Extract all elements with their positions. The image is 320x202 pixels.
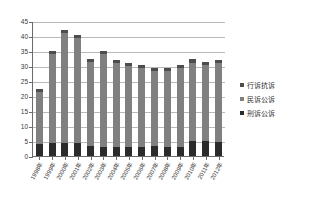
- bar-segment-xingsugongsu[interactable]: [151, 146, 158, 156]
- bar-segment-xingsugongsu[interactable]: [100, 147, 107, 156]
- stacked-bar[interactable]: [74, 35, 81, 156]
- stacked-bar[interactable]: [138, 65, 145, 157]
- bar-segment-xingsugongsu[interactable]: [138, 147, 145, 156]
- bar-segment-xingsugongsu[interactable]: [61, 143, 68, 157]
- stacked-bar[interactable]: [177, 65, 184, 157]
- bar-segment-minsugongsu[interactable]: [113, 63, 120, 147]
- bar-segment-minsugongsu[interactable]: [164, 71, 171, 148]
- x-axis-tick: [78, 156, 79, 160]
- bar-segment-minsugongsu[interactable]: [36, 92, 43, 145]
- bar-segment-xingsugongsu[interactable]: [49, 143, 56, 156]
- stacked-bar[interactable]: [49, 51, 56, 156]
- legend-swatch-icon: [240, 97, 244, 101]
- bar-group[interactable]: 2006年: [135, 21, 148, 156]
- bar-segment-minsugongsu[interactable]: [125, 66, 132, 147]
- bar-segment-minsugongsu[interactable]: [215, 63, 222, 142]
- bar-segment-minsugongsu[interactable]: [138, 68, 145, 148]
- y-axis-tick-label: 5: [24, 139, 28, 146]
- stacked-bar[interactable]: [125, 63, 132, 156]
- y-axis-tick-label: 25: [21, 79, 28, 86]
- y-axis-tick-label: 15: [21, 109, 28, 116]
- bar-group[interactable]: 2011年: [199, 21, 212, 156]
- legend-item-label: 民诉公诉: [247, 96, 275, 103]
- stacked-bar[interactable]: [36, 89, 43, 157]
- bar-segment-minsugongsu[interactable]: [87, 62, 94, 146]
- bar-segment-xingsugongsu[interactable]: [36, 144, 43, 156]
- bar-segment-minsugongsu[interactable]: [61, 33, 68, 143]
- chart-legend: 行诉抗诉民诉公诉刑诉公诉: [240, 78, 318, 120]
- chart-container: 454035302520151050 1998年1999年2000年2001年2…: [0, 0, 320, 202]
- bar-segment-minsugongsu[interactable]: [189, 63, 196, 141]
- y-axis-tick-label: 10: [21, 124, 28, 131]
- y-axis-tick-label: 20: [21, 94, 28, 101]
- stacked-bar[interactable]: [164, 68, 171, 157]
- stacked-bar[interactable]: [87, 59, 94, 156]
- y-axis-tick-label: 40: [21, 34, 28, 41]
- stacked-bar[interactable]: [202, 62, 209, 157]
- bar-segment-minsugongsu[interactable]: [74, 38, 81, 144]
- bar-group[interactable]: 2004年: [110, 21, 123, 156]
- bar-group[interactable]: 2008年: [161, 21, 174, 156]
- x-axis-tick: [91, 156, 92, 160]
- legend-item[interactable]: 行诉抗诉: [240, 78, 318, 92]
- bar-group[interactable]: 1998年: [33, 21, 46, 156]
- y-axis-tick-label: 0: [24, 154, 28, 161]
- legend-item-label: 行诉抗诉: [247, 82, 275, 89]
- legend-item[interactable]: 刑诉公诉: [240, 106, 318, 120]
- plot-area: 454035302520151050 1998年1999年2000年2001年2…: [32, 22, 224, 157]
- x-axis-tick: [129, 156, 130, 160]
- bar-group[interactable]: 1999年: [46, 21, 59, 156]
- bar-segment-xingsugongsu[interactable]: [87, 146, 94, 156]
- stacked-bar[interactable]: [189, 59, 196, 157]
- legend-item[interactable]: 民诉公诉: [240, 92, 318, 106]
- x-axis-tick: [219, 156, 220, 160]
- bar-segment-minsugongsu[interactable]: [100, 54, 107, 147]
- bar-segment-xingsugongsu[interactable]: [202, 141, 209, 156]
- bar-group[interactable]: 2003年: [97, 21, 110, 156]
- bar-segment-xingsugongsu[interactable]: [74, 143, 81, 156]
- x-axis-tick-label: 2010年: [183, 161, 198, 181]
- bar-segment-xingsugongsu[interactable]: [189, 141, 196, 156]
- bar-group[interactable]: 2005年: [123, 21, 136, 156]
- x-axis-tick: [193, 156, 194, 160]
- x-axis-tick: [116, 156, 117, 160]
- stacked-bar[interactable]: [113, 60, 120, 156]
- bar-segment-xingsugongsu[interactable]: [177, 147, 184, 156]
- bar-segment-minsugongsu[interactable]: [177, 68, 184, 148]
- stacked-bar[interactable]: [151, 68, 158, 156]
- bar-group[interactable]: 2010年: [187, 21, 200, 156]
- stacked-bar[interactable]: [100, 51, 107, 156]
- bar-group[interactable]: 2012年: [212, 21, 225, 156]
- bar-segment-minsugongsu[interactable]: [151, 71, 158, 146]
- x-axis-tick: [142, 156, 143, 160]
- legend-item-label: 刑诉公诉: [247, 110, 275, 117]
- y-axis-tick: [29, 157, 33, 158]
- x-axis-tick: [65, 156, 66, 160]
- bar-group[interactable]: 2002年: [84, 21, 97, 156]
- bar-group[interactable]: 2007年: [148, 21, 161, 156]
- stacked-bar[interactable]: [215, 60, 222, 156]
- x-axis-tick: [103, 156, 104, 160]
- bar-segment-xingsugongsu[interactable]: [113, 147, 120, 156]
- bar-segment-xingsugongsu[interactable]: [164, 147, 171, 156]
- bar-group[interactable]: 2000年: [59, 21, 72, 156]
- bar-segment-xingsugongsu[interactable]: [215, 142, 222, 156]
- x-axis-tick: [155, 156, 156, 160]
- bar-segment-xingsugongsu[interactable]: [125, 147, 132, 156]
- bar-group[interactable]: 2001年: [71, 21, 84, 156]
- x-axis-tick: [39, 156, 40, 160]
- bar-segment-minsugongsu[interactable]: [49, 54, 56, 143]
- y-axis-tick-label: 35: [21, 49, 28, 56]
- bar-segment-minsugongsu[interactable]: [202, 65, 209, 142]
- bar-group[interactable]: 2009年: [174, 21, 187, 156]
- stacked-bar[interactable]: [61, 30, 68, 156]
- y-axis-tick-label: 30: [21, 64, 28, 71]
- legend-swatch-icon: [240, 111, 244, 115]
- x-axis-tick: [167, 156, 168, 160]
- x-axis-tick: [180, 156, 181, 160]
- x-axis-tick: [52, 156, 53, 160]
- x-axis-tick: [206, 156, 207, 160]
- legend-swatch-icon: [240, 83, 244, 87]
- bar-series-layer: 1998年1999年2000年2001年2002年2003年2004年2005年…: [33, 21, 225, 156]
- y-axis-tick-label: 45: [21, 19, 28, 26]
